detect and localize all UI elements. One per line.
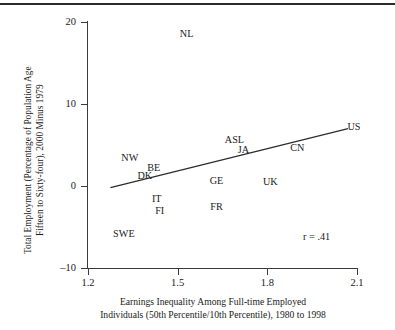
y-tick-mark: [81, 186, 87, 187]
x-tick-mark: [267, 269, 268, 275]
x-axis-line: [87, 268, 358, 269]
x-tick-label: 1.8: [247, 278, 287, 289]
data-point-label: GE: [210, 176, 224, 186]
x-tick-mark: [178, 269, 179, 275]
y-tick-label: 10: [36, 99, 76, 110]
scatter-plot-figure: Total Employment (Percentage of Populati…: [0, 0, 395, 330]
data-point-label: UK: [263, 177, 278, 187]
data-point-label: NL: [180, 29, 194, 39]
x-tick-mark: [357, 269, 358, 275]
y-tick-mark: [81, 22, 87, 23]
x-tick-mark: [88, 269, 89, 275]
y-tick-label: 20: [36, 17, 76, 28]
x-tick-label: 1.2: [68, 278, 108, 289]
y-axis-line: [87, 21, 88, 269]
data-point-label: US: [347, 122, 360, 132]
y-tick-label: 0: [36, 181, 76, 192]
x-tick-label: 1.5: [158, 278, 198, 289]
y-tick-label: –10: [36, 263, 76, 274]
y-tick-mark: [81, 268, 87, 269]
y-axis-title: Total Employment (Percentage of Populati…: [22, 31, 46, 289]
data-point-label: FR: [210, 202, 222, 212]
data-point-label: SWE: [113, 228, 135, 238]
x-axis-title: Earnings Inequality Among Full-time Empl…: [48, 295, 378, 321]
correlation-annotation: r = .41: [303, 232, 330, 242]
data-point-label: DK: [137, 171, 152, 181]
data-point-label: FI: [155, 206, 164, 216]
data-point-label: NW: [121, 153, 138, 163]
data-point-label: JA: [238, 145, 249, 155]
data-point-label: IT: [152, 194, 162, 204]
y-tick-mark: [81, 104, 87, 105]
x-tick-label: 2.1: [337, 278, 377, 289]
data-point-label: CN: [290, 143, 304, 153]
